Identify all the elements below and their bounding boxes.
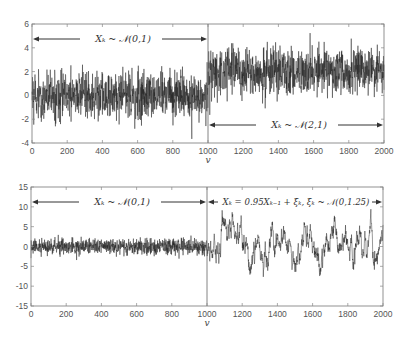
y-tick-label: -15 xyxy=(16,301,29,311)
left-arrowhead-icon xyxy=(209,123,215,128)
top-x-axis-label: v xyxy=(205,155,210,165)
bottom-x-axis-label: v xyxy=(204,318,209,328)
y-tick-label: 15 xyxy=(19,182,29,192)
x-tick-label: 800 xyxy=(166,146,180,156)
left-arrowhead-icon xyxy=(33,37,39,42)
y-tick-label: 0 xyxy=(24,90,29,100)
x-tick-label: 0 xyxy=(29,309,34,319)
x-tick-label: 200 xyxy=(60,146,74,156)
bottom-right-annotation: Xₖ = 0.95Xₖ₋₁ + ξₖ, ξₖ ~ 𝒩(0,1.25) xyxy=(208,197,382,207)
x-tick-label: 1200 xyxy=(233,309,252,319)
y-tick-label: -10 xyxy=(16,281,29,291)
top-right-annotation-text: Xₖ ~ 𝒩(2,1) xyxy=(270,119,327,130)
y-tick-label: 4 xyxy=(24,43,29,53)
bottom-left-annotation-text: Xₖ ~ 𝒩(0,1) xyxy=(93,196,150,207)
figure: -4-20246 0200400600800100012001400160018… xyxy=(0,0,412,337)
x-tick-label: 1600 xyxy=(304,146,323,156)
x-tick-label: 1600 xyxy=(303,309,322,319)
bottom-right-annotation-text: Xₖ = 0.95Xₖ₋₁ + ξₖ, ξₖ ~ 𝒩(0,1.25) xyxy=(222,197,370,207)
x-tick-label: 1400 xyxy=(268,309,287,319)
top-left-annotation-text: Xₖ ~ 𝒩(0,1) xyxy=(94,33,151,44)
y-tick-label: 10 xyxy=(19,202,29,212)
y-tick-label: 6 xyxy=(24,19,29,29)
panel-bottom-ar-shift: -15-10-5051015 0200400600800100012001400… xyxy=(16,182,393,328)
bottom-left-annotation: Xₖ ~ 𝒩(0,1) xyxy=(32,196,206,207)
x-tick-label: 2000 xyxy=(375,146,394,156)
left-arrowhead-icon xyxy=(208,200,214,205)
left-arrowhead-icon xyxy=(32,200,38,205)
y-tick-label: -5 xyxy=(20,261,28,271)
x-tick-label: 2000 xyxy=(374,309,393,319)
right-arrowhead-icon xyxy=(200,200,206,205)
x-tick-label: 1800 xyxy=(338,309,357,319)
y-tick-label: -4 xyxy=(21,138,29,148)
x-tick-label: 1200 xyxy=(234,146,253,156)
y-tick-label: 0 xyxy=(23,242,28,252)
right-arrowhead-icon xyxy=(377,123,383,128)
right-arrowhead-icon xyxy=(201,37,207,42)
x-tick-label: 800 xyxy=(165,309,179,319)
right-arrowhead-icon xyxy=(376,200,382,205)
x-tick-label: 600 xyxy=(131,146,145,156)
x-tick-label: 1800 xyxy=(339,146,358,156)
y-tick-label: 5 xyxy=(23,222,28,232)
top-left-annotation: Xₖ ~ 𝒩(0,1) xyxy=(33,33,207,44)
x-tick-label: 1400 xyxy=(269,146,288,156)
x-tick-label: 600 xyxy=(130,309,144,319)
x-tick-label: 0 xyxy=(30,146,35,156)
x-tick-label: 400 xyxy=(94,309,108,319)
top-right-annotation: Xₖ ~ 𝒩(2,1) xyxy=(209,119,383,130)
panel-top-normal-shift: -4-20246 0200400600800100012001400160018… xyxy=(21,19,393,165)
x-tick-label: 400 xyxy=(95,146,109,156)
x-tick-label: 200 xyxy=(59,309,73,319)
y-tick-label: 2 xyxy=(24,67,29,77)
y-tick-label: -2 xyxy=(21,114,29,124)
